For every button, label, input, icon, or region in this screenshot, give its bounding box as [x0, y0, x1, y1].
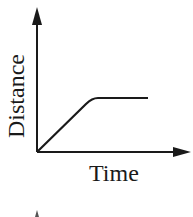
- distance-time-graph: Distance Time: [0, 0, 193, 217]
- y-axis-arrow-icon: [32, 7, 42, 25]
- y-axis-label: Distance: [3, 54, 29, 138]
- x-axis-label: Time: [89, 160, 139, 186]
- distance-curve: [37, 98, 148, 152]
- partial-arrow-icon: [35, 210, 39, 217]
- x-axis-arrow-icon: [173, 147, 191, 157]
